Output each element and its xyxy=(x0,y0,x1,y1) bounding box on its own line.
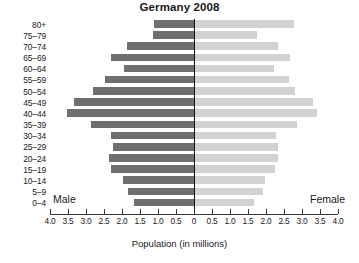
male-bar xyxy=(93,87,194,95)
male-bar xyxy=(74,98,194,106)
male-bar xyxy=(127,42,194,50)
x-axis-tick xyxy=(104,209,105,214)
x-axis-tick xyxy=(320,209,321,214)
female-bar xyxy=(195,31,257,39)
x-axis-tick xyxy=(212,209,213,214)
age-group-axis-labels: 80+75–7970–7465–6960–6455–5950–5445–4940… xyxy=(0,19,46,209)
male-bar xyxy=(134,199,194,207)
female-bar xyxy=(195,165,275,173)
pyramid-row xyxy=(50,153,338,164)
x-axis-tick xyxy=(122,209,123,214)
pyramid-row xyxy=(50,131,338,142)
pyramid-row xyxy=(50,41,338,52)
age-group-label: 45–49 xyxy=(2,98,46,108)
female-bar xyxy=(195,154,278,162)
population-pyramid-chart: Germany 2008 80+75–7970–7465–6960–6455–5… xyxy=(0,0,359,263)
male-bar xyxy=(111,132,194,140)
x-axis-tick xyxy=(86,209,87,214)
age-group-label: 10–14 xyxy=(2,176,46,186)
pyramid-row xyxy=(50,120,338,131)
female-bar xyxy=(195,42,278,50)
female-bar xyxy=(195,87,295,95)
female-bar xyxy=(195,65,274,73)
male-bar xyxy=(153,31,194,39)
pyramid-row xyxy=(50,108,338,119)
pyramid-row xyxy=(50,97,338,108)
age-group-label: 55–59 xyxy=(2,75,46,85)
pyramid-row xyxy=(50,164,338,175)
male-bar xyxy=(105,76,194,84)
age-group-label: 80+ xyxy=(2,20,46,30)
male-bar xyxy=(124,65,194,73)
age-group-label: 35–39 xyxy=(2,120,46,130)
plot-area xyxy=(50,19,338,209)
male-bar xyxy=(109,154,194,162)
male-bar xyxy=(123,176,194,184)
age-group-label: 65–69 xyxy=(2,53,46,63)
age-group-label: 50–54 xyxy=(2,87,46,97)
x-axis-tick xyxy=(338,209,339,214)
x-axis-tick xyxy=(194,209,195,214)
female-bar xyxy=(195,121,297,129)
x-axis-tick xyxy=(266,209,267,214)
female-bar xyxy=(195,176,265,184)
pyramid-row xyxy=(50,64,338,75)
pyramid-row xyxy=(50,187,338,198)
x-axis-tick xyxy=(140,209,141,214)
pyramid-row xyxy=(50,53,338,64)
female-bar xyxy=(195,109,317,117)
pyramid-row xyxy=(50,19,338,30)
male-bar xyxy=(91,121,194,129)
age-group-label: 60–64 xyxy=(2,64,46,74)
female-bar xyxy=(195,76,289,84)
age-group-label: 25–29 xyxy=(2,142,46,152)
female-bar xyxy=(195,188,263,196)
male-bar xyxy=(154,20,194,28)
x-axis-tick-label: 4.0 xyxy=(325,216,351,226)
x-axis-tick xyxy=(302,209,303,214)
pyramid-row xyxy=(50,198,338,209)
age-group-label: 30–34 xyxy=(2,131,46,141)
age-group-label: 40–44 xyxy=(2,109,46,119)
x-axis-tick xyxy=(158,209,159,214)
male-bar xyxy=(111,165,194,173)
pyramid-row xyxy=(50,75,338,86)
male-bar xyxy=(111,54,194,62)
age-group-label: 15–19 xyxy=(2,165,46,175)
male-series-label: Male xyxy=(53,193,76,205)
male-bar xyxy=(113,143,194,151)
male-bar xyxy=(67,109,194,117)
x-axis-tick xyxy=(176,209,177,214)
female-series-label: Female xyxy=(310,193,345,205)
x-axis-tick xyxy=(248,209,249,214)
chart-title: Germany 2008 xyxy=(0,1,359,13)
x-axis-line xyxy=(50,214,338,215)
female-bar xyxy=(195,20,294,28)
x-axis-tick xyxy=(284,209,285,214)
female-bar xyxy=(195,199,254,207)
x-axis-tick xyxy=(68,209,69,214)
female-bar xyxy=(195,132,276,140)
age-group-label: 0–4 xyxy=(2,198,46,208)
pyramid-row xyxy=(50,175,338,186)
x-axis-title: Population (in millions) xyxy=(0,238,359,249)
age-group-label: 75–79 xyxy=(2,31,46,41)
pyramid-row xyxy=(50,30,338,41)
age-group-label: 5–9 xyxy=(2,187,46,197)
female-bar xyxy=(195,143,278,151)
x-axis-tick xyxy=(50,209,51,214)
male-bar xyxy=(128,188,194,196)
age-group-label: 70–74 xyxy=(2,42,46,52)
female-bar xyxy=(195,54,290,62)
x-axis-tick xyxy=(230,209,231,214)
age-group-label: 20–24 xyxy=(2,154,46,164)
pyramid-row xyxy=(50,142,338,153)
female-bar xyxy=(195,98,313,106)
pyramid-row xyxy=(50,86,338,97)
